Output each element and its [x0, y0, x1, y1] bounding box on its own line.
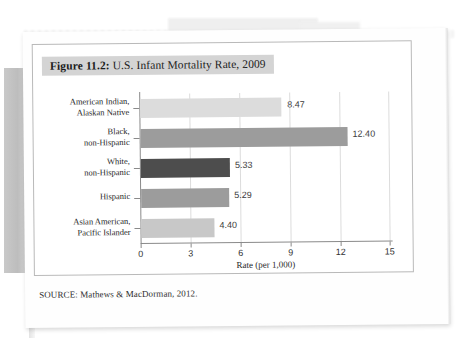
figure-title: Figure 11.2: U.S. Infant Mortality Rate,… — [42, 55, 274, 76]
bar-american-indian-alaskan-native — [140, 98, 281, 118]
bar-row: American Indian, Alaskan Native 8.47 — [139, 92, 389, 124]
y-tick — [133, 108, 139, 109]
plot-area: American Indian, Alaskan Native 8.47 Bla… — [139, 92, 390, 244]
x-tick-label: 3 — [188, 248, 193, 258]
x-tick — [291, 242, 292, 246]
y-tick — [134, 228, 140, 229]
category-label: Black, non-Hispanic — [38, 126, 130, 149]
y-tick — [134, 198, 140, 199]
bar-row: White, non-Hispanic 5.33 — [140, 152, 390, 184]
scanned-page-background: Figure 11.2: U.S. Infant Mortality Rate,… — [0, 0, 472, 339]
x-tick-label: 12 — [336, 247, 346, 257]
bar-value-label: 4.40 — [219, 220, 237, 230]
category-label-line: White, — [38, 156, 130, 168]
bar-hispanic — [141, 188, 229, 208]
category-label-line: Hispanic — [38, 191, 130, 203]
bar-row: Black, non-Hispanic 12.40 — [139, 122, 389, 154]
category-label: White, non-Hispanic — [38, 156, 130, 179]
x-tick-label: 6 — [238, 248, 243, 258]
y-tick — [134, 138, 140, 139]
category-label: Asian American, Pacific Islander — [38, 216, 130, 239]
figure-box: Figure 11.2: U.S. Infant Mortality Rate,… — [32, 40, 414, 276]
category-label-line: non-Hispanic — [38, 167, 130, 179]
x-tick — [241, 243, 242, 247]
x-tick — [390, 242, 391, 246]
bar-row: Asian American, Pacific Islander 4.40 — [140, 212, 390, 244]
x-tick-label: 0 — [138, 249, 143, 259]
category-label-line: Pacific Islander — [38, 227, 130, 239]
bar-value-label: 5.29 — [234, 190, 252, 200]
bar-value-label: 12.40 — [353, 129, 376, 139]
category-label-line: Alaskan Native — [37, 107, 129, 119]
figure-number: Figure 11.2: — [50, 59, 110, 72]
x-tick — [191, 243, 192, 247]
x-tick — [341, 242, 342, 246]
bar-row: Hispanic 5.29 — [140, 182, 390, 214]
x-tick — [141, 244, 142, 248]
bar-value-label: 5.33 — [235, 160, 253, 170]
source-note: SOURCE: Mathews & MacDorman, 2012. — [39, 288, 197, 300]
bar-black-non-hispanic — [141, 127, 348, 148]
x-axis-title: Rate (per 1,000) — [141, 259, 391, 271]
bar-value-label: 8.47 — [287, 99, 305, 109]
bar-white-non-hispanic — [141, 158, 230, 178]
category-label: Hispanic — [38, 191, 130, 203]
category-label-line: Asian American, — [38, 216, 130, 228]
x-axis: 0 3 6 9 12 15 Rate (per 1,000) — [141, 242, 391, 274]
textbook-page: Figure 11.2: U.S. Infant Mortality Rate,… — [23, 28, 450, 328]
category-label: American Indian, Alaskan Native — [37, 96, 129, 119]
y-tick — [134, 168, 140, 169]
bar-asian-american-pacific-islander — [141, 218, 214, 238]
x-tick-label: 9 — [288, 247, 293, 257]
figure-title-text: U.S. Infant Mortality Rate, 2009 — [110, 58, 266, 71]
category-label-line: Black, — [38, 126, 130, 138]
chart: American Indian, Alaskan Native 8.47 Bla… — [33, 87, 415, 277]
category-label-line: American Indian, — [37, 96, 129, 108]
category-label-line: non-Hispanic — [38, 137, 130, 149]
x-tick-label: 15 — [385, 246, 395, 256]
